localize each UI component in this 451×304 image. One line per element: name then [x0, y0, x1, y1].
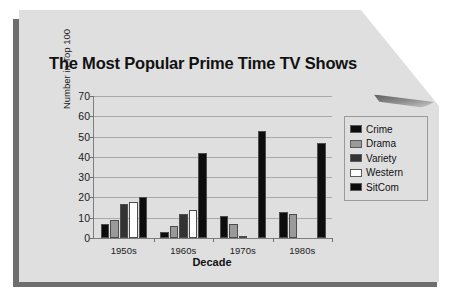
gridline: [94, 116, 332, 117]
y-tick-label: 30: [70, 171, 90, 183]
page-root: The Most Popular Prime Time TV Shows Num…: [0, 0, 451, 304]
legend-label: Western: [366, 167, 403, 178]
bar: [289, 214, 298, 238]
y-tick-label: 20: [70, 191, 90, 203]
y-tick-mark: [90, 157, 94, 158]
bar: [120, 204, 129, 238]
gridline: [94, 197, 332, 198]
x-tick-mark: [332, 238, 333, 242]
y-tick-label: 40: [70, 151, 90, 163]
legend-item-variety: Variety: [350, 151, 423, 166]
y-tick-label: 70: [70, 90, 90, 102]
y-tick-label: 10: [70, 212, 90, 224]
bar: [170, 226, 179, 238]
paper-sheet: The Most Popular Prime Time TV Shows Num…: [19, 10, 439, 282]
y-tick-label: 60: [70, 110, 90, 122]
gridline: [94, 177, 332, 178]
bar: [317, 143, 326, 238]
y-tick-label: 50: [70, 131, 90, 143]
x-tick-label: 1970s: [230, 245, 256, 256]
chart-legend: CrimeDramaVarietyWesternSitCom: [344, 116, 428, 201]
bar: [198, 153, 207, 238]
legend-label: Crime: [366, 124, 393, 135]
y-tick-mark: [90, 137, 94, 138]
legend-swatch-icon: [350, 169, 362, 177]
gridline: [94, 137, 332, 138]
legend-label: SitCom: [366, 182, 399, 193]
x-tick-label: 1960s: [170, 245, 196, 256]
chart-plot: Number in Top 100 010203040506070 1950s1…: [67, 90, 337, 270]
bar: [229, 224, 238, 238]
gridline: [94, 96, 332, 97]
bar: [101, 224, 110, 238]
legend-swatch-icon: [350, 154, 362, 162]
y-tick-mark: [90, 96, 94, 97]
bar: [139, 197, 148, 238]
x-tick-mark: [154, 238, 155, 242]
legend-item-crime: Crime: [350, 122, 423, 137]
x-tick-label: 1980s: [289, 245, 315, 256]
y-tick-mark: [90, 238, 94, 239]
bar: [279, 212, 288, 238]
x-tick-mark: [213, 238, 214, 242]
y-axis-label: Number in Top 100: [61, 14, 72, 124]
y-tick-mark: [90, 116, 94, 117]
plot-area: 010203040506070 1950s1960s1970s1980s: [93, 96, 332, 239]
legend-swatch-icon: [350, 140, 362, 148]
y-tick-label: 0: [70, 232, 90, 244]
bar: [220, 216, 229, 238]
bar: [179, 214, 188, 238]
bar: [129, 202, 138, 239]
x-tick-label: 1950s: [111, 245, 137, 256]
y-tick-mark: [90, 218, 94, 219]
chart-title: The Most Popular Prime Time TV Shows: [49, 54, 379, 73]
bar: [110, 220, 119, 238]
bar: [258, 131, 267, 239]
legend-swatch-icon: [350, 125, 362, 133]
bar: [239, 236, 248, 238]
legend-swatch-icon: [350, 183, 362, 191]
gridline: [94, 157, 332, 158]
legend-item-drama: Drama: [350, 137, 423, 152]
y-tick-mark: [90, 177, 94, 178]
legend-label: Drama: [366, 138, 396, 149]
legend-label: Variety: [366, 153, 396, 164]
x-tick-mark: [273, 238, 274, 242]
bar: [189, 210, 198, 238]
x-axis-label: Decade: [93, 256, 331, 268]
legend-item-sitcom: SitCom: [350, 180, 423, 195]
bar: [160, 232, 169, 238]
legend-item-western: Western: [350, 166, 423, 181]
y-tick-mark: [90, 197, 94, 198]
